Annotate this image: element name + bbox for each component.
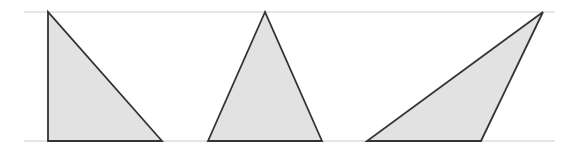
triangles-diagram	[0, 0, 581, 151]
right-triangle	[48, 12, 162, 141]
isosceles-triangle	[208, 12, 322, 141]
obtuse-triangle	[367, 12, 543, 141]
